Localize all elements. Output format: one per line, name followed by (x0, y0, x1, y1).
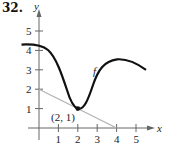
x-tick-4: 4 (114, 133, 120, 145)
point-marker (75, 106, 80, 111)
x-axis-label: x (156, 122, 162, 134)
y-tick-1: 1 (26, 103, 32, 115)
x-axis: x 1 2 3 4 5 (28, 122, 162, 146)
y-tick-3: 3 (26, 64, 32, 76)
y-axis: y 1 2 3 4 5 (26, 0, 43, 140)
y-tick-2: 2 (26, 83, 32, 95)
y-axis-label: y (33, 0, 39, 12)
y-tick-5: 5 (26, 25, 32, 37)
x-tick-1: 1 (56, 133, 62, 145)
x-tick-5: 5 (134, 133, 140, 145)
function-curve-f (22, 44, 147, 108)
x-axis-arrow-icon (147, 126, 155, 131)
x-tick-2: 2 (75, 133, 81, 145)
point-label: (2, 1) (51, 111, 75, 124)
x-tick-3: 3 (95, 133, 101, 145)
y-tick-4: 4 (26, 44, 32, 56)
graph: y 1 2 3 4 5 x 1 2 3 4 5 (2, 1) f (0, 0, 169, 152)
